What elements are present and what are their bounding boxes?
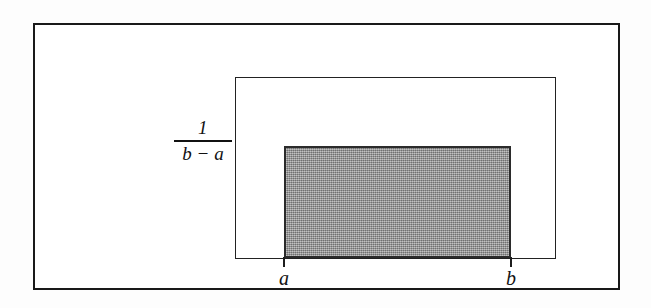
x-axis-label-b: b [496, 268, 526, 288]
x-axis-tick-a [283, 257, 285, 267]
x-axis-tick-b [510, 257, 512, 267]
fraction-numerator: 1 [174, 118, 232, 139]
fraction-bar [174, 140, 232, 142]
figure-outer-frame: 1 b − a a b [33, 23, 620, 290]
figure-container: 1 b − a a b [0, 0, 651, 308]
shaded-density-region [284, 146, 511, 258]
x-axis-label-a: a [269, 268, 299, 288]
density-height-label: 1 b − a [174, 118, 232, 163]
fraction-denominator: b − a [174, 144, 232, 163]
